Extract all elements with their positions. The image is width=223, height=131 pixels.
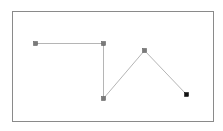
polyline-path[interactable] (36, 44, 187, 99)
drawing-canvas[interactable] (0, 0, 223, 131)
vertex-handle[interactable] (102, 97, 106, 101)
canvas-frame (13, 12, 214, 122)
vertex-handles (34, 42, 189, 101)
vertex-handle[interactable] (34, 42, 38, 46)
vertex-handle[interactable] (102, 42, 106, 46)
vertex-handle-selected[interactable] (185, 93, 189, 97)
vertex-handle[interactable] (143, 49, 147, 53)
